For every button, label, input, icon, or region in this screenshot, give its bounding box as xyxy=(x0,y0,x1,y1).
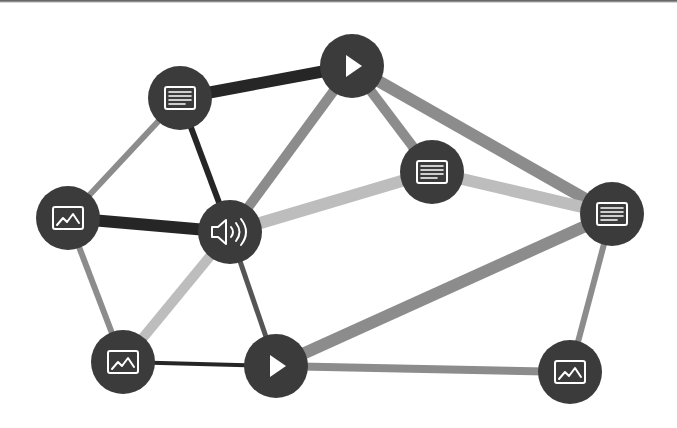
node-n6[interactable] xyxy=(580,182,644,246)
node-n3[interactable] xyxy=(400,140,464,204)
node-circle[interactable] xyxy=(198,200,262,264)
node-n7[interactable] xyxy=(91,330,155,394)
network-diagram xyxy=(0,0,677,428)
node-circle[interactable] xyxy=(580,182,644,246)
node-circle[interactable] xyxy=(148,66,212,130)
edge-n2-n6 xyxy=(352,66,612,214)
node-n4[interactable] xyxy=(36,186,100,250)
edges-layer xyxy=(68,66,612,372)
node-circle[interactable] xyxy=(91,330,155,394)
node-circle[interactable] xyxy=(400,140,464,204)
node-circle[interactable] xyxy=(36,186,100,250)
node-n9[interactable] xyxy=(538,340,602,404)
node-n8[interactable] xyxy=(244,334,308,398)
node-n2[interactable] xyxy=(320,34,384,98)
node-n1[interactable] xyxy=(148,66,212,130)
node-circle[interactable] xyxy=(538,340,602,404)
node-n5[interactable] xyxy=(198,200,262,264)
edge-n8-n9 xyxy=(276,366,570,372)
